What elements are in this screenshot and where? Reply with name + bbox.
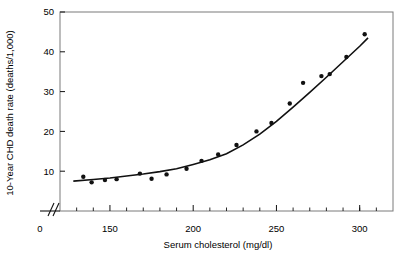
y-axis-ticks (60, 12, 65, 171)
y-tick-label: 40 (43, 46, 54, 57)
data-point (301, 81, 305, 85)
x-axis-minor-ticks (77, 208, 377, 212)
y-tick-label: 30 (43, 86, 54, 97)
x-tick-label: 200 (185, 223, 201, 234)
chart-figure: 1020304050 150200250300 0 Serum choleste… (0, 0, 398, 255)
x-tick-label: 150 (102, 223, 118, 234)
data-point (254, 129, 258, 133)
data-point (149, 177, 153, 181)
x-origin-label: 0 (37, 223, 42, 234)
data-point (114, 177, 118, 181)
x-tick-label: 300 (352, 223, 368, 234)
y-tick-labels: 1020304050 (43, 6, 54, 176)
data-point (138, 171, 142, 175)
data-point (269, 121, 273, 125)
data-point (216, 152, 220, 156)
data-point (288, 101, 292, 105)
fit-curve (73, 38, 368, 181)
x-tick-labels: 150200250300 (102, 223, 368, 234)
x-axis-label: Serum cholesterol (mg/dl) (164, 239, 273, 250)
data-points (81, 32, 367, 184)
data-point (344, 55, 348, 59)
y-tick-label: 10 (43, 166, 54, 177)
data-point (319, 74, 323, 78)
y-tick-label: 20 (43, 126, 54, 137)
x-axis-ticks (110, 205, 360, 211)
axis-break-icon (48, 203, 59, 216)
data-point (81, 175, 85, 179)
x-tick-label: 250 (269, 223, 285, 234)
plot-frame (60, 12, 393, 211)
data-point (103, 178, 107, 182)
data-point (164, 172, 168, 176)
data-point (89, 180, 93, 184)
chart-svg: 1020304050 150200250300 0 Serum choleste… (0, 0, 398, 255)
data-point (199, 159, 203, 163)
y-tick-label: 50 (43, 6, 54, 17)
data-point (184, 167, 188, 171)
y-axis-label: 10-Year CHD death rate (deaths/1,000) (4, 30, 15, 195)
data-point (234, 143, 238, 147)
data-point (362, 32, 366, 36)
data-point (328, 72, 332, 76)
